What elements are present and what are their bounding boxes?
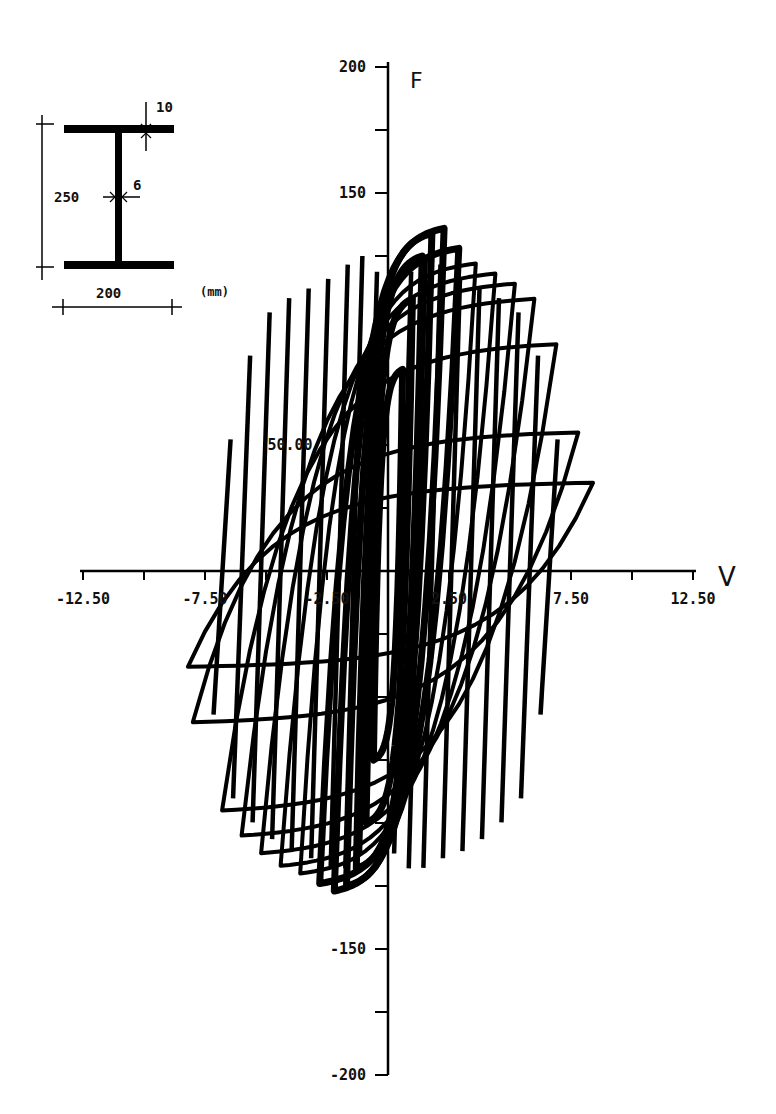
y-tick-label: -150: [330, 940, 366, 958]
y-tick-label: 150: [339, 184, 366, 202]
height-label: 250: [54, 189, 79, 205]
y-tick-label: -200: [330, 1066, 366, 1084]
x-axis-name: V: [718, 562, 736, 592]
units-label: (mm): [200, 285, 229, 299]
i-section-inset: 10 6 250 200 (mm): [36, 99, 229, 315]
width-label: 200: [96, 285, 121, 301]
top-flange: [64, 125, 174, 133]
x-axis-tick-labels: -12.50-7.50-2.502.507.5012.50: [56, 590, 716, 608]
hysteresis-chart: -12.50-7.50-2.502.507.5012.50 V 20015050…: [0, 0, 776, 1114]
unloading-branch: [482, 298, 499, 839]
hysteresis-loops: [188, 228, 593, 891]
unloading-branch: [272, 298, 289, 839]
y-axis-name: F: [410, 68, 423, 93]
x-tick-label: -12.50: [56, 590, 110, 608]
x-tick-label: -7.50: [182, 590, 227, 608]
unloading-branch: [214, 439, 231, 714]
hysteresis-loop: [193, 432, 579, 722]
x-tick-label: -2.50: [304, 590, 349, 608]
y-tick-label: 200: [339, 58, 366, 76]
bottom-flange: [64, 261, 174, 269]
x-tick-label: 12.50: [670, 590, 715, 608]
flange-thickness-label: 10: [156, 99, 173, 115]
x-tick-label: 7.50: [553, 590, 589, 608]
unloading-branch: [541, 439, 558, 714]
x-tick-label: 2.50: [431, 590, 467, 608]
y-tick-label: 50.00: [267, 436, 312, 454]
web-thickness-label: 6: [133, 177, 141, 193]
unloading-branch: [253, 312, 270, 822]
